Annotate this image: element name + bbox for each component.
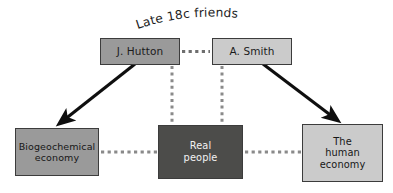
diagram-canvas: Late 18c friends J. Hutton A. Smith Biog… xyxy=(0,0,393,193)
node-j-hutton-label: J. Hutton xyxy=(101,45,179,57)
node-human-economy-label: The human economy xyxy=(303,136,382,171)
node-j-hutton[interactable]: J. Hutton xyxy=(100,38,180,65)
node-biogeochemical-economy-label: Biogeochemical economy xyxy=(16,141,98,163)
node-a-smith[interactable]: A. Smith xyxy=(212,38,292,65)
node-real-people-label: Real people xyxy=(159,140,242,163)
diagram-title: Late 18c friends xyxy=(0,0,393,40)
edge-smith-human-economy xyxy=(263,64,333,117)
node-a-smith-label: A. Smith xyxy=(213,45,291,57)
node-real-people[interactable]: Real people xyxy=(158,125,243,179)
diagram-title-text: Late 18c friends xyxy=(134,6,239,32)
node-biogeochemical-economy[interactable]: Biogeochemical economy xyxy=(15,128,99,176)
edge-hutton-biogeochemical xyxy=(64,64,135,120)
node-human-economy[interactable]: The human economy xyxy=(302,124,383,182)
